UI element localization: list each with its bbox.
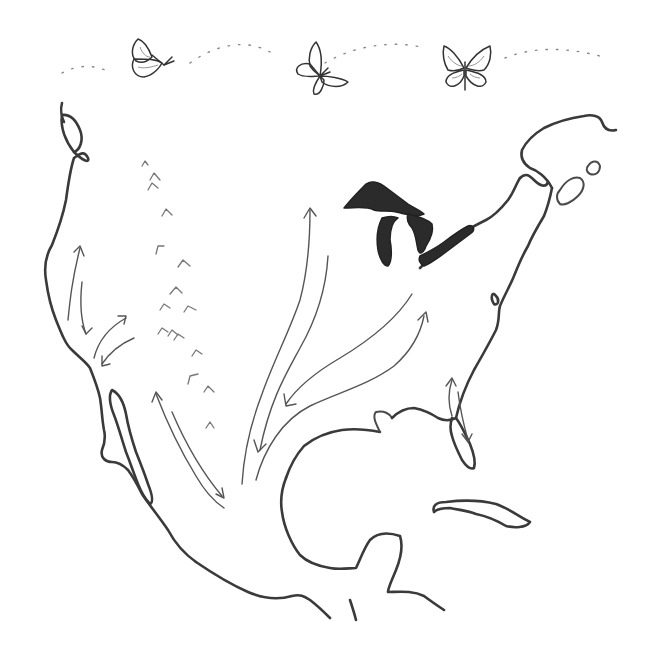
arrow-central-flyway-north xyxy=(242,208,316,484)
mexico-outline xyxy=(196,411,444,618)
lake-superior xyxy=(344,182,424,216)
lake-huron xyxy=(407,214,432,253)
rocky-mountains-marks xyxy=(142,161,214,428)
arrow-central-flyway-south xyxy=(254,256,328,452)
migration-arrows xyxy=(68,208,472,508)
butterfly-three-quarter-icon xyxy=(297,42,348,94)
west-coast-outline xyxy=(45,103,196,562)
butterfly-front-view-icon xyxy=(443,46,491,90)
arrow-california-inland-loop xyxy=(94,316,134,366)
butterfly-side-view-icon xyxy=(132,39,174,77)
arrow-western-mexico-route xyxy=(152,392,224,508)
maritimes-outline xyxy=(557,162,600,205)
baja-california-outline xyxy=(110,390,152,504)
central-america-outline xyxy=(350,600,356,620)
great-lakes xyxy=(344,182,474,266)
cuba-outline xyxy=(434,501,531,528)
arrow-eastern-route-south xyxy=(284,294,412,406)
arrow-pacific-coast-south xyxy=(81,282,92,334)
arrow-eastern-route-north xyxy=(256,312,428,480)
lake-michigan xyxy=(377,217,398,267)
migration-sketch-map xyxy=(0,0,649,647)
east-coast-outline xyxy=(456,115,616,418)
